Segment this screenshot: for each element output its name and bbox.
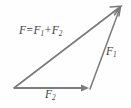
label-resultant-term1-base: F [34,24,41,36]
label-resultant-term1-sub: 1 [41,30,45,38]
label-resultant-F: F [19,24,26,36]
label-f2-base: F [45,88,52,100]
label-f1-sub: 1 [113,51,117,59]
label-vector-f2: F2 [45,89,56,101]
vector-f2-arrowhead [81,84,89,91]
label-resultant-equation: F=F1+F2 [19,25,62,37]
vector-resultant-shaft [14,7,120,88]
label-f2-sub: 2 [52,94,56,102]
vector-addition-figure: F=F1+F2 F1 F2 [0,0,131,108]
label-resultant-term2-base: F [52,24,59,36]
label-vector-f1: F1 [106,46,117,58]
label-resultant-plus: + [44,24,52,36]
label-resultant-equals: = [26,24,34,36]
label-resultant-term2-sub: 2 [59,30,63,38]
label-f1-base: F [106,45,113,57]
